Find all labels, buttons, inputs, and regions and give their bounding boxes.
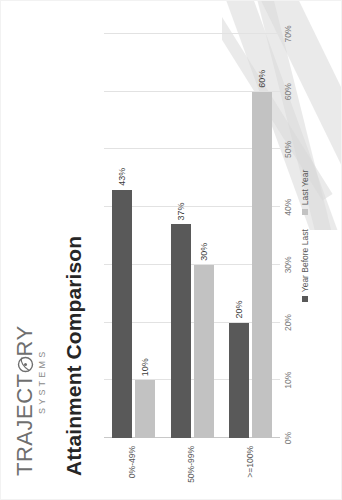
logo-wordmark-tail: RY [12,325,37,356]
bar-last-year [135,380,155,438]
tick-label: 0% [283,432,293,444]
bar-value-label: 60% [252,70,272,88]
category-label: 0%-49% [127,446,137,478]
legend-item[interactable]: Year Before Last [300,229,310,302]
bar-value-label: 37% [171,202,191,220]
category-axis-labels: 0%-49%50%-99%>=100% [104,442,280,496]
tick-label: 20% [283,314,293,331]
chart-legend: Year Before LastLast Year [300,34,310,438]
page-title: Attainment Comparison [62,236,86,476]
tick-label: 70% [283,25,293,42]
bar-value-label: 43% [112,168,132,186]
bar-value-label: 30% [194,243,214,261]
bar-value-label: 20% [229,301,249,319]
bar-year-before-last [229,323,249,438]
slide-canvas: TRAJECT RY SYSTEMS Attainment Comparison… [0,0,342,500]
logo-wordmark-head: TRAJECT [12,374,37,477]
category-label: >=100% [245,446,255,478]
bar-series-container: 43%10%37%30%20%60% [104,34,280,438]
bar-last-year [194,265,214,438]
logo-wordmark: TRAJECT RY [14,325,36,476]
slide-rotation-wrapper: TRAJECT RY SYSTEMS Attainment Comparison… [0,0,342,500]
value-axis-tick-labels: 0%10%20%30%40%50%60%70% [282,34,298,438]
chart-plot-area: 0%-49%50%-99%>=100% 43%10%37%30%20%60% 0… [104,34,280,438]
bar-last-year [252,92,272,438]
scanned-slide-page: TRAJECT RY SYSTEMS Attainment Comparison… [0,0,342,500]
bar-year-before-last [171,224,191,438]
tick-label: 10% [283,372,293,389]
company-logo: TRAJECT RY SYSTEMS [14,325,47,476]
legend-swatch [302,296,308,302]
tick-label: 30% [283,256,293,273]
legend-item[interactable]: Last Year [300,170,310,215]
circle-swoosh-icon [17,357,34,374]
tick-label: 60% [283,83,293,100]
tick-label: 40% [283,199,293,216]
logo-tagline: SYSTEMS [38,325,47,414]
legend-label: Last Year [300,170,310,205]
category-label: 50%-99% [186,446,196,483]
bar-year-before-last [112,190,132,438]
bar-value-label: 10% [135,358,155,376]
legend-label: Year Before Last [300,229,310,292]
tick-label: 50% [283,141,293,158]
legend-swatch [302,209,308,215]
